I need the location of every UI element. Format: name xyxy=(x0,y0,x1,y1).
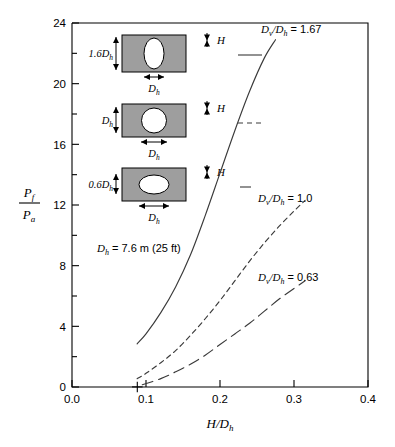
y-label-0: 0 xyxy=(60,381,66,393)
inset-wide-ellipse-hole xyxy=(139,175,169,194)
x-label-00: 0.0 xyxy=(64,393,80,405)
inset-circle-hole xyxy=(142,108,167,133)
x-label-02: 0.2 xyxy=(212,393,228,405)
y-axis-title-denominator-sub: a xyxy=(31,214,36,224)
inset-tall-ellipse-H-label: H xyxy=(216,34,226,46)
chart-background xyxy=(0,0,395,447)
y-label-20: 20 xyxy=(53,78,66,90)
y-label-24: 24 xyxy=(53,17,66,29)
x-label-01: 0.1 xyxy=(138,393,154,405)
x-axis-title-main: H/D xyxy=(206,416,230,431)
x-label-04: 0.4 xyxy=(360,393,377,405)
x-axis-title-sub: h xyxy=(229,423,234,433)
y-label-12: 12 xyxy=(53,199,66,211)
y-label-8: 8 xyxy=(60,260,66,272)
inset-circle-H-label: H xyxy=(216,102,226,114)
chart-figure: 0 4 8 12 16 20 24 0.0 0.1 0.2 0.3 0.4 Pf… xyxy=(0,0,395,447)
inset-tall-ellipse-hole xyxy=(144,38,164,69)
y-label-4: 4 xyxy=(60,321,67,333)
y-axis-title-numerator: P xyxy=(23,185,32,200)
chart-svg: 0 4 8 12 16 20 24 0.0 0.1 0.2 0.3 0.4 Pf… xyxy=(0,0,395,447)
y-axis-title-denominator: P xyxy=(22,207,31,222)
x-label-03: 0.3 xyxy=(286,393,302,405)
y-label-16: 16 xyxy=(53,139,66,151)
